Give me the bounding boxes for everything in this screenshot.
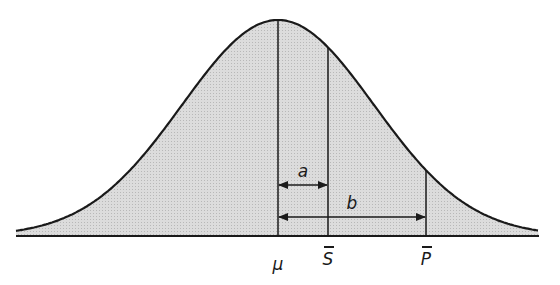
arrow-label-b: b (347, 195, 358, 212)
overbar-p_bar (422, 246, 432, 248)
marker-label-s_bar: S (323, 251, 334, 268)
overbar-s_bar (324, 246, 334, 248)
marker-label-mu: μ (273, 256, 284, 273)
marker-label-p_bar: P (421, 251, 431, 268)
normal-curve-diagram (0, 0, 560, 285)
arrow-label-a: a (298, 163, 308, 180)
